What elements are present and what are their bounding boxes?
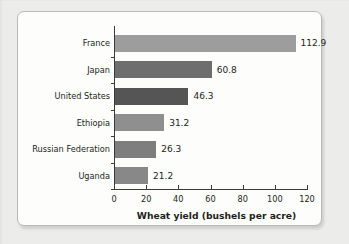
x-axis-tick-label: 60 (205, 195, 215, 203)
x-axis-tick-label: 80 (237, 195, 247, 203)
category-label: United States (55, 92, 110, 100)
x-axis-tick-label: 20 (141, 195, 151, 203)
chart-card: France112.9Japan60.8United States46.3Eth… (17, 11, 322, 226)
x-axis-tick (178, 185, 179, 189)
x-axis-title: Wheat yield (bushels per acre) (137, 211, 297, 220)
value-label: 21.2 (153, 171, 173, 180)
x-axis-tick-label: 100 (267, 195, 283, 203)
value-label: 26.3 (161, 145, 181, 154)
bar-united-states (114, 88, 188, 105)
x-axis-tick (146, 185, 147, 189)
x-axis-tick-label: 40 (173, 195, 183, 203)
value-label: 31.2 (169, 118, 189, 127)
x-axis-tick-label: 0 (111, 195, 116, 203)
bar-japan (114, 61, 212, 78)
bar-russian-federation (114, 141, 156, 158)
value-label: 46.3 (193, 92, 213, 101)
bar-uganda (114, 167, 148, 184)
x-axis-tick (243, 185, 244, 189)
x-axis-tick (307, 185, 308, 189)
category-label: Russian Federation (32, 145, 110, 153)
category-label: France (83, 39, 110, 47)
x-axis-tick (275, 185, 276, 189)
y-axis-line (114, 26, 115, 189)
category-label: Ethiopia (77, 119, 110, 127)
bar-ethiopia (114, 114, 164, 131)
bar-france (114, 35, 296, 52)
category-label: Japan (87, 66, 110, 74)
x-axis-tick-label: 120 (299, 195, 315, 203)
category-label: Uganda (78, 172, 110, 180)
x-axis-tick (114, 185, 115, 189)
x-axis-tick (211, 185, 212, 189)
x-axis-line (114, 189, 308, 190)
bar-chart: France112.9Japan60.8United States46.3Eth… (18, 12, 323, 227)
scanned-page: France112.9Japan60.8United States46.3Eth… (0, 0, 349, 244)
value-label: 112.9 (301, 39, 327, 48)
value-label: 60.8 (217, 65, 237, 74)
